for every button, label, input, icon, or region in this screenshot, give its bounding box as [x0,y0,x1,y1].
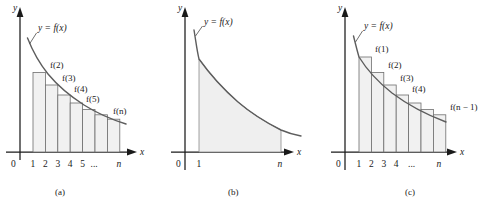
panel-b-y-axis: y [177,3,188,170]
panel-a-bar-3 [58,95,70,152]
panel-b-tick-n: n [278,159,283,169]
panel-c-tick-n: n [437,159,442,169]
panel-b-x-axis-label: x [296,147,302,157]
panel-c-label-f4: f(4) [412,84,426,94]
panel-a-bar-1 [33,73,45,153]
panel-a-bar-4 [70,103,82,152]
panel-a-tick-5: 5 [80,159,85,169]
panel-a-curve-label: y = f(x) [37,23,67,34]
panel-b-origin-label: 0 [176,159,181,169]
panel-c-label-f1: f(1) [375,44,389,54]
panel-a-origin-label: 0 [11,159,16,169]
panel-a-tick-n: n [117,159,122,169]
panel-a: y x y = f(x) f(2) f(3) f(4) f(5) f(n) [6,3,145,197]
panel-c-label-f2: f(2) [388,60,402,70]
panel-a-y-axis: y [12,3,23,160]
panel-c-bars [359,57,446,152]
panel-c-label-fn1: f(n − 1) [450,102,478,112]
panel-c-bar-7 [433,115,445,152]
panel-c-origin-label: 0 [336,159,341,169]
panel-a-label-f2: f(2) [50,60,64,70]
panel-a-tick-4: 4 [68,159,73,169]
panel-a-bar-2 [45,85,57,152]
panel-a-y-axis-label: y [12,3,18,13]
panel-c: y x y = f(x) f(1) f(2) f(3) f(4) f(n − 1… [331,3,478,197]
panel-a-label-fn: f(n) [113,106,127,116]
panel-c-tick-ellipsis: ... [408,159,415,169]
panel-a-label-f5: f(5) [86,94,100,104]
panel-b: y x y = f(x) 0 1 n (b) [171,3,302,197]
panel-a-label-f3: f(3) [62,73,76,83]
panel-b-y-axis-label: y [177,3,183,13]
panel-a-curve-leader [30,33,37,44]
panel-c-curve-label: y = f(x) [363,21,393,32]
panel-b-curve-label: y = f(x) [203,17,233,28]
panel-c-caption: (c) [405,187,415,197]
panel-c-tick-3: 3 [381,159,386,169]
panel-c-tick-1: 1 [357,159,362,169]
panel-b-shaded-region [199,59,281,152]
panel-a-caption: (a) [55,187,65,197]
panel-a-bar-5 [83,110,95,153]
panel-a-bar-7 [107,119,119,152]
panel-c-tick-4: 4 [394,159,399,169]
panel-c-y-axis: y [337,3,348,170]
panel-c-y-axis-label: y [337,3,343,13]
panel-a-tick-ellipsis: ... [91,159,98,169]
panel-a-x-axis-label: x [139,147,145,157]
panel-a-tick-3: 3 [55,159,60,169]
panel-b-tick-1: 1 [197,159,202,169]
panel-c-x-axis-label: x [459,147,465,157]
panel-a-label-f4: f(4) [74,84,88,94]
panel-c-label-f3: f(3) [400,73,414,83]
panel-b-caption: (b) [228,187,239,197]
panel-a-tick-1: 1 [31,159,36,169]
panel-b-curve-leader [196,26,203,36]
figure-riemann-sums: y x y = f(x) f(2) f(3) f(4) f(5) f(n) [0,0,486,203]
panel-c-curve-leader [356,31,363,42]
panel-a-tick-2: 2 [43,159,48,169]
panel-c-tick-2: 2 [369,159,374,169]
panel-a-bar-6 [95,115,107,152]
